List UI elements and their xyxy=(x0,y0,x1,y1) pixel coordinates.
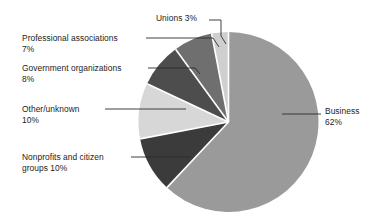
slice-label-professional-associations-line2: 7% xyxy=(22,44,118,55)
slice-label-other-unknown: Other/unknown 10% xyxy=(22,104,79,125)
slice-label-other-unknown-line2: 10% xyxy=(22,115,79,126)
slice-label-other-unknown-line1: Other/unknown xyxy=(22,104,79,114)
slice-label-professional-associations-line1: Professional associations xyxy=(22,33,118,43)
slice-label-business: Business 62% xyxy=(325,106,359,127)
slice-label-business-line1: Business xyxy=(325,106,359,116)
slice-label-government-organizations-line2: 8% xyxy=(22,74,121,85)
slice-label-unions-line1: Unions 3% xyxy=(156,13,197,23)
slice-label-nonprofits-line2: groups 10% xyxy=(22,163,104,174)
slice-label-government-organizations-line1: Government organizations xyxy=(22,63,121,73)
slice-label-business-line2: 62% xyxy=(325,117,359,128)
slice-label-nonprofits-line1: Nonprofits and citizen xyxy=(22,152,104,162)
slice-label-professional-associations: Professional associations 7% xyxy=(22,33,118,54)
slice-label-government-organizations: Government organizations 8% xyxy=(22,63,121,84)
slice-label-unions: Unions 3% xyxy=(156,13,197,24)
slice-label-nonprofits: Nonprofits and citizen groups 10% xyxy=(22,152,104,173)
